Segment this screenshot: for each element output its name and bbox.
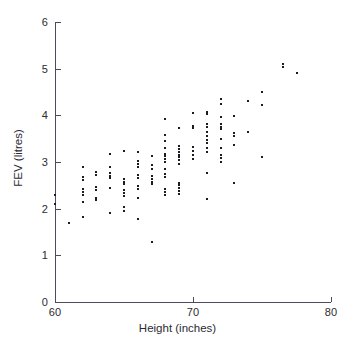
x-tick-label-70: 70 (187, 306, 200, 318)
data-point (164, 176, 166, 178)
data-point (192, 150, 194, 152)
data-point (233, 132, 235, 134)
data-point (233, 135, 235, 137)
data-point (220, 123, 222, 125)
data-point (151, 175, 153, 177)
y-tick-label-4: 4 (34, 109, 48, 121)
data-point (95, 186, 97, 188)
data-point (206, 139, 208, 141)
data-point (206, 126, 208, 128)
y-tick-4 (56, 115, 61, 116)
data-point (206, 172, 208, 174)
data-point (109, 187, 111, 189)
data-point (54, 203, 56, 205)
data-point (123, 181, 125, 183)
x-axis-label: Height (inches) (0, 322, 355, 334)
data-point (164, 158, 166, 160)
data-point (178, 145, 180, 147)
data-point (137, 160, 139, 162)
data-point (95, 199, 97, 201)
data-point (261, 91, 263, 93)
data-point (109, 172, 111, 174)
data-point (123, 189, 125, 191)
data-point (192, 112, 194, 114)
y-tick-label-1: 1 (34, 249, 48, 261)
data-point (137, 151, 139, 153)
data-point (123, 192, 125, 194)
data-point (220, 154, 222, 156)
data-point (178, 182, 180, 184)
data-point (206, 147, 208, 149)
data-point (95, 171, 97, 173)
x-tick-70 (193, 297, 194, 302)
data-point (151, 183, 153, 185)
y-tick-label-2: 2 (34, 203, 48, 215)
data-point (123, 195, 125, 197)
data-point (137, 218, 139, 220)
data-point (164, 168, 166, 170)
data-point (220, 128, 222, 130)
data-point (282, 66, 284, 68)
y-tick-label-3: 3 (34, 156, 48, 168)
data-point (220, 138, 222, 140)
data-point (151, 155, 153, 157)
data-point (164, 140, 166, 142)
data-point (178, 163, 180, 165)
data-point (151, 168, 153, 170)
figure-scatter-fev-vs-height: 607080 0123456 Height (inches) FEV (litr… (0, 0, 355, 345)
data-point (178, 156, 180, 158)
data-point (123, 178, 125, 180)
data-point (192, 158, 194, 160)
data-point (82, 176, 84, 178)
data-point (220, 161, 222, 163)
data-point (82, 188, 84, 190)
data-point (206, 111, 208, 113)
data-point (109, 177, 111, 179)
data-point (82, 179, 84, 181)
data-point (220, 126, 222, 128)
data-point (137, 188, 139, 190)
data-point (178, 148, 180, 150)
data-point (151, 178, 153, 180)
data-point (220, 147, 222, 149)
data-point (109, 153, 111, 155)
data-point (220, 116, 222, 118)
x-axis-line (55, 302, 331, 303)
y-tick-2 (56, 209, 61, 210)
data-point (82, 191, 84, 193)
data-point (164, 161, 166, 163)
x-tick-label-60: 60 (49, 306, 62, 318)
data-point (233, 144, 235, 146)
data-point (178, 190, 180, 192)
data-point (137, 177, 139, 179)
data-point (123, 150, 125, 152)
data-point (178, 187, 180, 189)
data-point (109, 212, 111, 214)
data-point (137, 197, 139, 199)
data-point (247, 131, 249, 133)
data-point (151, 241, 153, 243)
data-point (261, 156, 263, 158)
plot-area: 607080 0123456 (0, 0, 355, 345)
data-point (233, 182, 235, 184)
data-point (123, 183, 125, 185)
data-point (247, 100, 249, 102)
data-point (164, 118, 166, 120)
data-point (206, 151, 208, 153)
data-point (296, 72, 298, 74)
data-point (95, 174, 97, 176)
y-tick-6 (56, 22, 61, 23)
x-tick-label-80: 80 (325, 306, 338, 318)
y-tick-1 (56, 255, 61, 256)
data-point (54, 194, 56, 196)
y-tick-0 (56, 302, 61, 303)
data-point (206, 113, 208, 115)
y-tick-label-6: 6 (34, 16, 48, 28)
data-point (220, 98, 222, 100)
y-tick-3 (56, 162, 61, 163)
data-point (178, 193, 180, 195)
data-point (178, 127, 180, 129)
y-axis-label: FEV (litres) (12, 93, 24, 223)
data-point (137, 174, 139, 176)
y-tick-5 (56, 69, 61, 70)
